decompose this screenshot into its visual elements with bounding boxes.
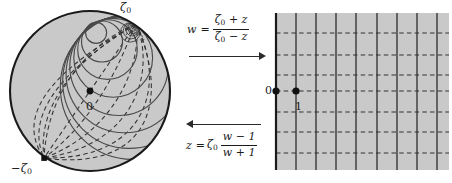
- one-point-marker: [292, 87, 299, 94]
- half-plane-zero-label: 0: [265, 85, 272, 96]
- forward-equals: =: [200, 23, 209, 36]
- backward-arrow-head: [186, 120, 193, 128]
- forward-numerator: ζ0 + z: [213, 14, 250, 28]
- backward-fraction: w − 1 w + 1: [221, 131, 258, 160]
- forward-lhs: w: [187, 23, 196, 36]
- forward-denominator: ζ0 − z: [213, 31, 250, 45]
- backward-arrow-shaft: [189, 124, 261, 125]
- neg-zeta0-point-marker: [41, 155, 47, 161]
- unit-disk-panel: [0, 0, 185, 183]
- forward-arrow-shaft: [189, 56, 261, 57]
- forward-fraction: ζ0 + z ζ0 − z: [213, 14, 250, 45]
- backward-denominator: w + 1: [221, 147, 258, 160]
- right-half-plane-panel: [265, 0, 452, 183]
- forward-map-formula: w = ζ0 + z ζ0 − z: [187, 14, 250, 45]
- origin-point-marker: [87, 88, 94, 95]
- conformal-map-figure: ζ0 −ζ0 0 w = ζ0 + z ζ0 − z z = ζ0 w − 1 …: [0, 0, 452, 183]
- disk-origin-label: 0: [86, 101, 93, 112]
- zero-point-marker: [272, 87, 279, 94]
- backward-lhs: z: [186, 139, 192, 152]
- neg-zeta0-label: −ζ0: [11, 163, 32, 176]
- unit-disk-svg: [0, 0, 185, 183]
- backward-numerator: w − 1: [221, 131, 258, 144]
- zeta0-label: ζ0: [120, 2, 131, 15]
- backward-equals: =: [196, 139, 205, 152]
- half-plane-svg: [265, 0, 452, 183]
- backward-coefficient: ζ0: [207, 138, 218, 152]
- backward-map-formula: z = ζ0 w − 1 w + 1: [186, 131, 258, 160]
- half-plane-one-label: 1: [295, 101, 302, 112]
